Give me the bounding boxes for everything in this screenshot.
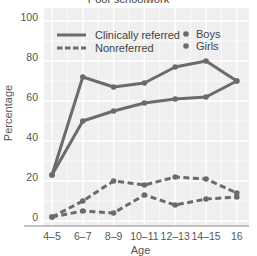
data-point xyxy=(142,100,148,106)
x-axis-ticks: 4–56–78–910–1112–1314–1516 xyxy=(43,230,243,242)
x-tick-label: 14–15 xyxy=(191,230,220,242)
data-point xyxy=(203,196,209,202)
data-point xyxy=(203,58,209,64)
x-tick-label: 8–9 xyxy=(105,230,123,242)
data-point xyxy=(142,182,148,188)
data-point xyxy=(80,118,86,124)
data-point xyxy=(80,208,86,214)
y-tick-label: 0 xyxy=(32,211,38,223)
y-tick-label: 40 xyxy=(26,131,38,143)
data-point xyxy=(111,210,117,216)
legend-label: Girls xyxy=(196,40,219,52)
legend-dot-icon xyxy=(183,43,189,49)
data-point xyxy=(142,80,148,86)
x-tick-label: 4–5 xyxy=(43,230,61,242)
data-point xyxy=(172,202,178,208)
data-point xyxy=(172,174,178,180)
legend-label: Clinically referred xyxy=(95,29,180,41)
legend-label: Nonreferred xyxy=(95,42,154,54)
legend-dot-icon xyxy=(183,31,189,37)
y-tick-label: 100 xyxy=(20,11,38,23)
data-point xyxy=(172,96,178,102)
y-axis-ticks: 020406080100 xyxy=(20,11,38,223)
data-point xyxy=(172,64,178,70)
data-point xyxy=(203,94,209,100)
x-axis-label: Age xyxy=(131,244,151,256)
y-tick-label: 20 xyxy=(26,171,38,183)
data-point xyxy=(234,194,240,200)
legend-label: Boys xyxy=(196,28,221,40)
data-point xyxy=(203,176,209,182)
data-point xyxy=(111,178,117,184)
x-tick-label: 12–13 xyxy=(161,230,190,242)
data-point xyxy=(80,74,86,80)
x-tick-label: 6–7 xyxy=(74,230,92,242)
line-chart: 020406080100 4–56–78–910–1112–1314–1516 … xyxy=(0,0,257,256)
data-point xyxy=(49,172,55,178)
x-tick-label: 10–11 xyxy=(130,230,159,242)
y-tick-label: 80 xyxy=(26,51,38,63)
data-point xyxy=(49,214,55,220)
data-point xyxy=(80,198,86,204)
data-point xyxy=(142,192,148,198)
data-point xyxy=(111,108,117,114)
x-tick-label: 16 xyxy=(231,230,243,242)
data-point xyxy=(111,84,117,90)
data-point xyxy=(234,78,240,84)
y-axis-label: Percentage xyxy=(2,85,14,141)
y-tick-label: 60 xyxy=(26,91,38,103)
